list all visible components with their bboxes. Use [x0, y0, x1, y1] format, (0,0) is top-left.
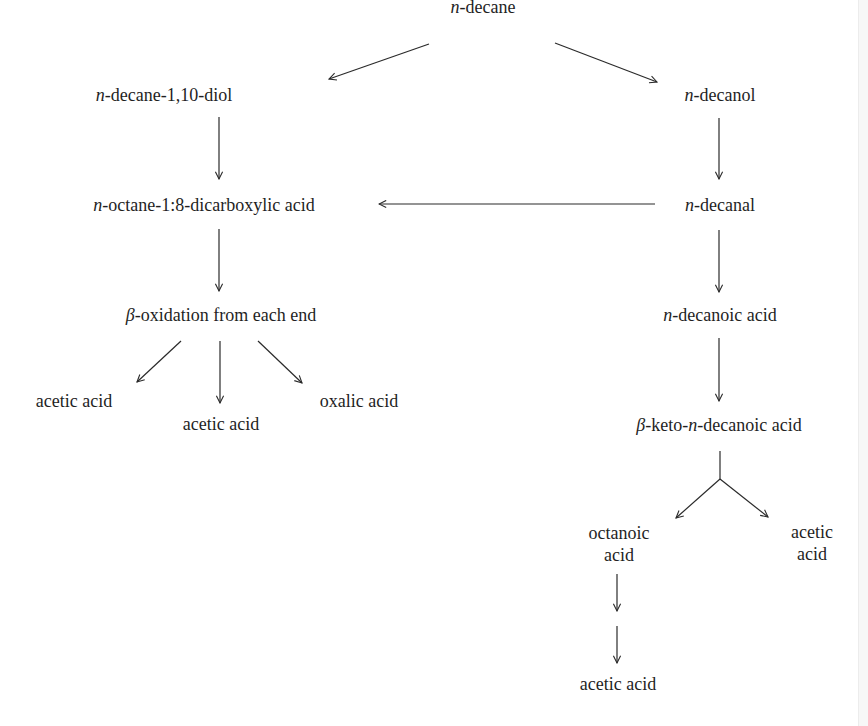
node-n-decanol: n-decanol [685, 84, 756, 106]
arrow-decane-to-decanol [555, 43, 657, 82]
node-octanoic-acid: octanoic acid [589, 522, 650, 566]
node-n-octane-dicarboxylic-acid: n-octane-1:8-dicarboxylic acid [93, 194, 314, 216]
italic-prefix: n [685, 195, 694, 215]
italic-prefix: β [126, 305, 135, 325]
node-oxalic-acid: oxalic acid [320, 390, 398, 412]
italic-prefix: n [688, 415, 697, 435]
node-n-decanal: n-decanal [685, 194, 755, 216]
node-acetic-acid-left: acetic acid [36, 390, 112, 412]
node-beta-keto-n-decanoic-acid: β-keto-n-decanoic acid [636, 414, 801, 436]
node-beta-oxidation: β-oxidation from each end [126, 304, 316, 326]
arrow-beta-oxidation-to-acetic-left [137, 341, 181, 382]
arrow-fork-to-octanoic [676, 479, 720, 518]
arrow-decane-to-diol [329, 44, 429, 79]
arrow-beta-oxidation-to-oxalic [258, 341, 302, 383]
italic-prefix: n [93, 195, 102, 215]
node-acetic-acid-bottom: acetic acid [580, 673, 656, 695]
italic-prefix: n [685, 85, 694, 105]
italic-prefix: n [451, 0, 460, 17]
italic-prefix: n [663, 305, 672, 325]
node-acetic-acid-right: acetic acid [791, 521, 833, 565]
node-acetic-acid-middle: acetic acid [183, 413, 259, 435]
italic-prefix: β [636, 415, 645, 435]
arrow-fork-to-acetic-right [720, 479, 768, 517]
node-n-decane-diol: n-decane-1,10-diol [96, 84, 232, 106]
italic-prefix: n [96, 85, 105, 105]
node-n-decane: n-decane [451, 0, 516, 18]
node-n-decanoic-acid: n-decanoic acid [663, 304, 776, 326]
